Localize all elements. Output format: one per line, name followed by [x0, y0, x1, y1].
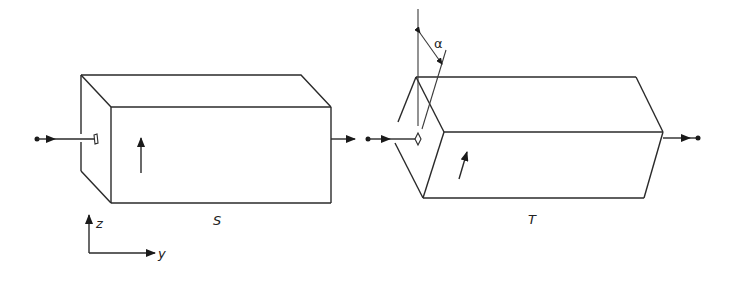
- box-t-front-left-edge: [423, 132, 444, 198]
- y-axis-label: y: [157, 246, 166, 261]
- box-t: T: [395, 77, 663, 227]
- tilted-axis-line: [422, 50, 446, 129]
- beam-middle: [331, 133, 421, 145]
- box-s-top-edge: [81, 75, 331, 107]
- box-s: S: [81, 75, 331, 228]
- box-s-label: S: [213, 213, 221, 228]
- beam-out: [663, 136, 701, 141]
- box-t-top-right-diagonal: [636, 77, 663, 132]
- beam-in: [35, 134, 99, 144]
- box-t-back-left-edge-lower: [395, 143, 423, 198]
- angle-alpha: α: [418, 9, 446, 129]
- beam-end-dot-icon: [696, 136, 701, 141]
- box-t-polarization-arrow-icon: [459, 152, 467, 179]
- box-t-back-left-edge-upper: [398, 77, 416, 122]
- polarizer-diagram: S T α: [0, 0, 734, 285]
- box-t-entry-aperture-icon: [415, 133, 421, 145]
- coordinate-axes: z y: [89, 215, 166, 261]
- box-t-front-right-edge: [644, 132, 663, 198]
- box-s-bottom-left-diagonal: [81, 171, 111, 203]
- box-t-label: T: [528, 212, 537, 227]
- angle-alpha-label: α: [434, 36, 443, 51]
- z-axis-label: z: [95, 216, 104, 231]
- box-s-entry-aperture-icon: [94, 134, 98, 144]
- box-s-top-left-diagonal: [81, 75, 111, 107]
